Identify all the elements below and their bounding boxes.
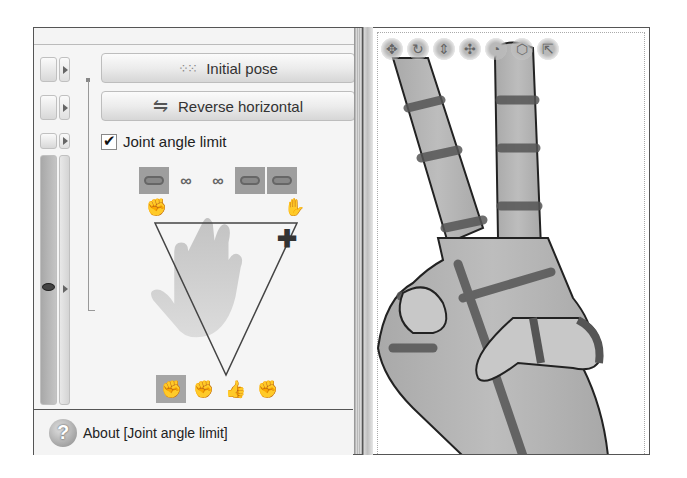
expand-arrow-icon: [63, 285, 68, 293]
initial-pose-button[interactable]: ⁘⁙ Initial pose: [101, 53, 355, 83]
chain-link-icon: ∞: [212, 172, 223, 190]
joint-link-toggles: ∞ ∞: [139, 167, 297, 194]
layer-expand-toggle[interactable]: [59, 95, 70, 120]
panel-content: ⁘⁙ Initial pose ⇋ Reverse horizontal Joi…: [34, 45, 353, 409]
rotate-tool-button[interactable]: ↻: [407, 38, 429, 60]
panel-header: [34, 28, 362, 45]
fist-side-icon: ✊: [161, 379, 182, 400]
layer-expand-toggle[interactable]: [59, 133, 70, 149]
flip-horizontal-icon: ⇋: [153, 95, 168, 117]
layer-expand-toggle[interactable]: [59, 57, 70, 82]
orbit-icon: ◔: [492, 41, 500, 57]
layer-expand-toggle[interactable]: [59, 155, 70, 405]
3d-viewport[interactable]: ✥ ↻ ⇕ ✣ ◔ ⬡ ⇱: [373, 27, 650, 455]
tool-property-panel: ⁘⁙ Initial pose ⇋ Reverse horizontal Joi…: [33, 27, 363, 455]
scale-icon: ⇕: [438, 41, 450, 57]
viewport-tools: ✥ ↻ ⇕ ✣ ◔ ⬡ ⇱: [381, 38, 559, 60]
expand-arrow-icon: [63, 104, 68, 112]
panel-splitter[interactable]: [363, 27, 373, 455]
crosshair-marker[interactable]: ✚: [277, 227, 297, 251]
layer-visibility-toggle-active[interactable]: [40, 155, 57, 405]
pose-button-fist-back[interactable]: ✊: [252, 375, 282, 403]
pan-tool-button[interactable]: ✣: [459, 38, 481, 60]
joint-link-toggle-1[interactable]: [139, 167, 169, 194]
orbit-tool-button[interactable]: ◔: [485, 38, 507, 60]
open-hand-icon: ✋: [284, 197, 305, 218]
linked-pill-icon: [272, 176, 292, 185]
joint-angle-limit-label: Joint angle limit: [123, 133, 226, 150]
joint-link-toggle-5[interactable]: [267, 167, 297, 194]
reverse-horizontal-label: Reverse horizontal: [178, 98, 303, 115]
dots-ring-icon: ⁘⁙: [178, 61, 196, 76]
cube-tool-button[interactable]: ⬡: [511, 38, 533, 60]
reverse-horizontal-button[interactable]: ⇋ Reverse horizontal: [101, 91, 355, 121]
scale-tool-button[interactable]: ⇕: [433, 38, 455, 60]
joint-angle-limit-checkbox[interactable]: [101, 134, 117, 150]
chain-link-icon: ∞: [180, 172, 191, 190]
expand-arrow-icon: [63, 66, 68, 74]
fist-thumb-icon: 👍: [225, 379, 246, 400]
joint-link-toggle-2[interactable]: ∞: [171, 167, 201, 194]
reset-tool-button[interactable]: ⇱: [537, 38, 559, 60]
move-tool-button[interactable]: ✥: [381, 38, 403, 60]
panel-scrollbar[interactable]: [354, 28, 362, 454]
joint-link-toggle-4[interactable]: [235, 167, 265, 194]
eye-icon: [42, 283, 55, 291]
layer-visibility-toggle[interactable]: [40, 95, 57, 120]
pose-button-fist-thumb[interactable]: 👍: [220, 375, 250, 403]
layer-visibility-toggle[interactable]: [40, 57, 57, 82]
cube-icon: ⬡: [516, 41, 528, 57]
rotate-icon: ↻: [412, 41, 424, 57]
peace-sign-hand-model: [373, 28, 650, 455]
fist-front-icon: ✊: [193, 379, 214, 400]
linked-pill-icon: [144, 176, 164, 185]
initial-pose-label: Initial pose: [206, 60, 278, 77]
joint-angle-limit-row[interactable]: Joint angle limit: [101, 133, 226, 150]
fist-back-icon: ✊: [257, 379, 278, 400]
about-bar[interactable]: ? About [Joint angle limit]: [34, 409, 353, 455]
reset-icon: ⇱: [542, 41, 554, 57]
move-icon: ✥: [386, 41, 398, 57]
pan-icon: ✣: [464, 41, 476, 57]
pose-button-fist-side[interactable]: ✊: [156, 375, 186, 403]
expand-arrow-icon: [63, 137, 68, 145]
joint-link-toggle-3[interactable]: ∞: [203, 167, 233, 194]
pose-button-fist-front[interactable]: ✊: [188, 375, 218, 403]
layer-visibility-toggle[interactable]: [40, 133, 57, 149]
hand-pose-buttons: ✊ ✊ 👍 ✊: [156, 375, 282, 403]
help-icon: ?: [49, 419, 77, 447]
linked-pill-icon: [240, 176, 260, 185]
tree-connector-line: [88, 81, 95, 311]
about-label: About [Joint angle limit]: [83, 425, 228, 441]
